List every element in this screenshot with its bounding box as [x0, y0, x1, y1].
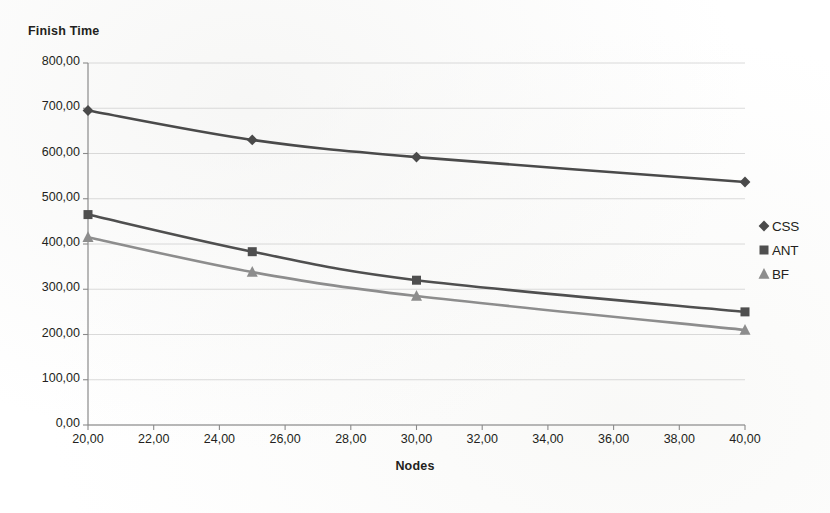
square-marker-icon	[412, 276, 421, 285]
legend-label: CSS	[772, 219, 799, 234]
legend-label: ANT	[772, 243, 798, 258]
triangle-marker-icon	[757, 267, 771, 281]
triangle-marker-icon	[758, 268, 769, 279]
finish-time-line-chart: Finish Time Nodes 0,00100,00200,00300,00…	[0, 0, 830, 513]
plot-area	[0, 0, 830, 513]
diamond-marker-icon	[759, 221, 770, 232]
legend-item-bf[interactable]: BF	[757, 262, 799, 286]
triangle-marker-icon	[82, 231, 93, 242]
square-marker-icon	[248, 247, 257, 256]
diamond-marker-icon	[83, 105, 94, 116]
legend-item-ant[interactable]: ANT	[757, 238, 799, 262]
legend-label: BF	[772, 267, 789, 282]
square-marker-icon	[84, 210, 93, 219]
series-line-css	[88, 111, 745, 182]
diamond-marker-icon	[757, 219, 771, 233]
diamond-marker-icon	[247, 135, 258, 146]
chart-legend: CSSANTBF	[757, 214, 799, 286]
diamond-marker-icon	[740, 177, 751, 188]
square-marker-icon	[760, 246, 769, 255]
series-css	[83, 105, 751, 187]
square-marker-icon	[741, 307, 750, 316]
legend-item-css[interactable]: CSS	[757, 214, 799, 238]
square-marker-icon	[757, 243, 771, 257]
